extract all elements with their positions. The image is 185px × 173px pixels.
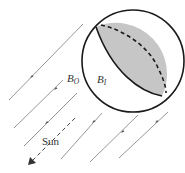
sphere-illumination-diagram: BO BI Sun <box>0 0 185 173</box>
ray-6 <box>119 112 168 158</box>
label-outer-boundary: BO <box>67 72 80 86</box>
sphere <box>82 10 184 112</box>
ray-4 <box>61 113 102 159</box>
ray-5 <box>90 115 138 162</box>
label-sun: Sun <box>42 135 60 147</box>
ray-1 <box>9 24 83 100</box>
